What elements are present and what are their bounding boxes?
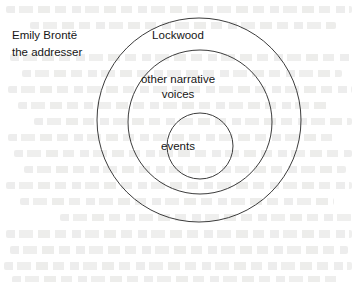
outer-ring-label: Lockwood [0, 28, 356, 43]
middle-ring-label-line-2: voices [162, 88, 195, 100]
middle-ring-label-line-1: other narrative [141, 73, 215, 85]
middle-ring-label: other narrativevoices [0, 72, 356, 102]
inner-circle-label: events [0, 139, 356, 154]
outer-ring-label-text: Lockwood [152, 29, 204, 41]
inner-circle-label-text: events [161, 140, 195, 152]
figure-canvas: Emily Brontëthe addresser Lockwood other… [0, 0, 356, 282]
caption-line-2: the addresser [12, 46, 82, 58]
